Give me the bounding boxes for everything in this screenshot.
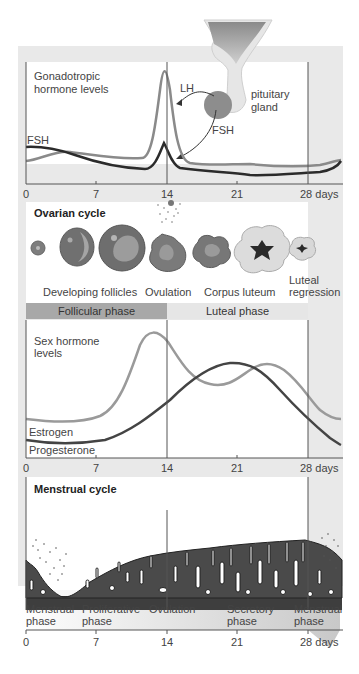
phase-ovulation: Ovulation [149, 603, 195, 615]
phase-proliferative-1b: phase [82, 615, 112, 627]
stage-luteal-regression-2: regression [289, 286, 340, 298]
stage-corpus-luteum: Corpus luteum [204, 286, 276, 298]
phase-secretory-1b: phase [227, 615, 257, 627]
x-tick-28-bottom: 28 days [300, 636, 339, 648]
stage-ovulation: Ovulation [145, 286, 191, 298]
phase-secretory-1: Secretory [227, 603, 274, 615]
x-tick-7-bottom: 7 [93, 636, 99, 648]
stage-luteal-regression-1: Luteal [289, 274, 319, 286]
x-tick-14-bottom: 14 [161, 636, 173, 648]
gonadotropic-chart [0, 0, 359, 180]
stage-developing-follicles: Developing follicles [43, 286, 137, 298]
x-tick-21-mid: 21 [231, 462, 243, 474]
x-tick-0-bottom: 0 [23, 636, 29, 648]
x-tick-14-mid: 14 [161, 462, 173, 474]
sex-hormone-chart [0, 320, 359, 480]
x-tick-21-top: 21 [231, 188, 243, 200]
x-tick-21-bottom: 21 [231, 636, 243, 648]
follicular-phase-bar: Follicular phase [26, 303, 167, 319]
x-tick-28-mid: 28 days [300, 462, 339, 474]
phase-menstrual-2: Menstrual [294, 603, 342, 615]
x-tick-14-top: 14 [161, 188, 173, 200]
x-tick-7-top: 7 [93, 188, 99, 200]
x-tick-7-mid: 7 [93, 462, 99, 474]
x-tick-28-top: 28 days [300, 188, 339, 200]
menstrual-title: Menstrual cycle [34, 483, 117, 495]
x-tick-0-top: 0 [23, 188, 29, 200]
x-tick-0-mid: 0 [23, 462, 29, 474]
phase-menstrual-1: Menstrual [26, 603, 74, 615]
phase-proliferative-1: Proliferative [82, 603, 140, 615]
phase-menstrual-1b: phase [26, 615, 56, 627]
phase-menstrual-2b: phase [294, 615, 324, 627]
luteal-phase-bar: Luteal phase [167, 303, 308, 319]
